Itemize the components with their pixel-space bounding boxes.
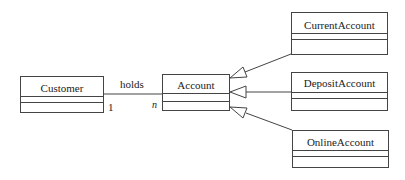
- class-current-account[interactable]: CurrentAccount: [291, 12, 388, 55]
- inheritance-arrow-deposit-icon: [230, 86, 246, 98]
- class-customer[interactable]: Customer: [20, 76, 104, 113]
- class-name: Customer: [21, 82, 103, 94]
- class-online-account[interactable]: OnlineAccount: [292, 130, 389, 168]
- class-name: CurrentAccount: [292, 19, 387, 31]
- attributes-divider: [292, 92, 387, 93]
- generalization-line-online: [246, 113, 292, 130]
- class-account[interactable]: Account: [162, 74, 230, 111]
- attributes-divider: [292, 33, 387, 34]
- methods-divider: [293, 156, 388, 157]
- class-name: OnlineAccount: [293, 136, 388, 148]
- association-label: holds: [120, 78, 144, 90]
- methods-divider: [292, 39, 387, 40]
- attributes-divider: [293, 150, 388, 151]
- class-name: Account: [163, 79, 229, 91]
- generalization-line-current: [245, 54, 291, 72]
- multiplicity-account: n: [152, 99, 157, 110]
- attributes-divider: [21, 96, 103, 97]
- methods-divider: [292, 98, 387, 99]
- methods-divider: [163, 101, 229, 102]
- class-name: DepositAccount: [292, 77, 387, 89]
- methods-divider: [21, 102, 103, 103]
- multiplicity-customer: 1: [108, 101, 114, 113]
- class-deposit-account[interactable]: DepositAccount: [291, 72, 388, 111]
- inheritance-arrow-online-icon: [230, 107, 247, 118]
- attributes-divider: [163, 93, 229, 94]
- inheritance-arrow-current-icon: [230, 67, 247, 78]
